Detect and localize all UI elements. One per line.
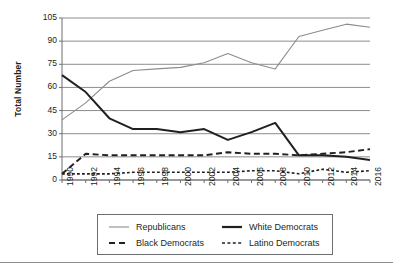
legend-label-latino-democrats: Latino Democrats [249,238,320,248]
legend-swatch-republicans [108,222,130,232]
chart-legend: Republicans White Democrats Black Democr… [97,214,333,255]
x-tick-label: 2006 [256,167,265,186]
plot-area: Total Number 0153045607590105 1990199219… [0,0,393,200]
x-tick-label: 2010 [303,167,312,186]
legend-label-republicans: Republicans [136,222,186,232]
legend-row: Black Democrats Latino Democrats [98,235,332,251]
legend-swatch-latino-democrats [221,238,243,248]
x-tick-label: 2004 [232,167,241,186]
legend-item-black-democrats: Black Democrats [98,235,221,251]
legend-swatch-white-democrats [221,222,243,232]
legend-row: Republicans White Democrats [98,219,332,235]
x-tick-label: 1994 [113,167,122,186]
x-tick-label: 2002 [208,167,217,186]
x-tick-label: 2016 [374,167,383,186]
x-tick-label: 1992 [90,167,99,186]
chart-figure: Total Number 0153045607590105 1990199219… [0,0,393,273]
legend-item-white-democrats: White Democrats [221,219,332,235]
x-tick-label: 2014 [350,167,359,186]
x-tick-label: 1990 [66,167,75,186]
legend-label-white-democrats: White Democrats [249,222,318,232]
legend-item-latino-democrats: Latino Democrats [221,235,332,251]
x-tick-label: 1996 [137,167,146,186]
x-tick-label: 2012 [327,167,336,186]
legend-swatch-black-democrats [108,238,130,248]
bottom-divider [0,262,393,263]
x-tick-label: 2008 [279,167,288,186]
legend-item-republicans: Republicans [98,219,221,235]
x-tick-label: 1998 [161,167,170,186]
x-tick-label: 2000 [184,167,193,186]
x-axis-tick-labels: 1990199219941996199820002002200420062008… [0,0,393,200]
legend-label-black-democrats: Black Democrats [136,238,204,248]
